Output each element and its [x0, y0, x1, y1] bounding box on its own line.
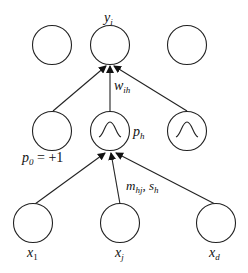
- hidden-layer: ph p0 = +1: [21, 112, 207, 168]
- output-node-1: [33, 26, 72, 65]
- label-p0: p0 = +1: [21, 150, 63, 167]
- label-x1: x1: [26, 245, 38, 262]
- label-wih: wih: [114, 78, 131, 95]
- output-layer: yi: [33, 10, 207, 65]
- hidden-node-last: [168, 112, 207, 151]
- bias-node: [33, 112, 72, 151]
- edge-xj-to-ph: [111, 153, 120, 204]
- label-xj: xj: [114, 245, 124, 262]
- edge-bias-to-yi: [53, 66, 106, 111]
- rbf-network-diagram: yi wih ph p0 = +1 mhj, sh x1 xj xd: [0, 0, 248, 273]
- input-node-xd: [197, 204, 236, 243]
- input-node-xj: [101, 204, 140, 243]
- label-ph: ph: [132, 124, 145, 141]
- label-yi: yi: [102, 10, 113, 27]
- output-node-yi: [91, 26, 130, 65]
- label-xd: xd: [208, 245, 220, 262]
- input-layer: x1 xj xd: [14, 204, 236, 263]
- hidden-node-ph: [91, 112, 130, 151]
- label-mhj-sh: mhj, sh: [126, 178, 159, 195]
- output-node-3: [168, 26, 207, 65]
- input-node-x1: [14, 204, 53, 243]
